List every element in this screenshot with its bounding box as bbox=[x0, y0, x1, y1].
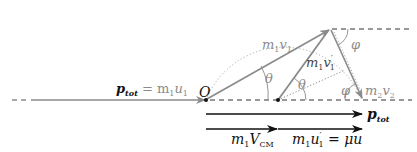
label-origin: O bbox=[199, 85, 210, 99]
m2v2-m: m bbox=[365, 83, 377, 98]
label-phi-top: φ bbox=[351, 38, 360, 51]
label-m1vcm: m1VCM bbox=[231, 132, 274, 149]
m1u1p-m: m bbox=[292, 131, 305, 147]
ptot-eq: = m bbox=[142, 81, 169, 96]
label-phi-bottom: φ bbox=[341, 84, 350, 97]
m1v1-v-sub: 1 bbox=[287, 45, 292, 54]
diagram-canvas bbox=[0, 0, 417, 152]
collision-diagram: ptot = m1u1 O m1v1 m1v′1 m2v2 θ θ φ φ pt… bbox=[0, 0, 417, 152]
m1v1-m: m bbox=[262, 37, 274, 52]
m1v1-v: v bbox=[279, 37, 286, 52]
label-theta-lab: θ bbox=[265, 72, 273, 85]
ptot-u-sub: 1 bbox=[183, 89, 188, 98]
ptot-u: u bbox=[174, 81, 182, 96]
ptot-sub: tot bbox=[125, 88, 138, 98]
label-m2v2: m2v2 bbox=[365, 84, 395, 100]
m1vcm-m: m bbox=[231, 131, 244, 147]
label-m1v1-prime: m1v′1 bbox=[306, 55, 335, 72]
ptot-right-p: p bbox=[367, 106, 377, 122]
m1u1p-eq: = μu bbox=[324, 131, 363, 147]
m2v2-v: v bbox=[382, 83, 389, 98]
ptot-p: p bbox=[116, 81, 125, 96]
cm-point bbox=[276, 98, 280, 102]
ptot-right-sub: tot bbox=[377, 114, 390, 124]
label-ptot-initial: ptot = m1u1 bbox=[116, 82, 188, 98]
label-m1u1-prime: m1u′1 = μu bbox=[292, 132, 362, 149]
label-m1v1: m1v1 bbox=[262, 38, 292, 54]
m1v1p-v-sub: 1 bbox=[330, 63, 335, 72]
label-ptot-final: ptot bbox=[367, 107, 390, 123]
phi-arc-top bbox=[338, 29, 348, 45]
m1vcm-V: V bbox=[249, 131, 259, 147]
label-theta-cm: θ bbox=[298, 78, 306, 91]
m1vcm-V-sub: CM bbox=[260, 140, 274, 149]
m2v2-v-sub: 2 bbox=[390, 91, 395, 100]
m1v1p-m: m bbox=[306, 55, 318, 70]
